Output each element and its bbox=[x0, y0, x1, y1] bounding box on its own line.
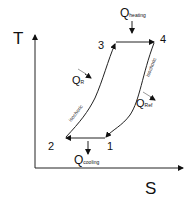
q-cooling-label: Qcooling bbox=[74, 153, 99, 167]
q-heating-label: Qheating bbox=[120, 6, 146, 20]
point-2-label: 2 bbox=[48, 140, 54, 152]
point-3-label: 3 bbox=[98, 39, 104, 51]
q-r-arrow bbox=[85, 74, 91, 78]
s-axis-label: S bbox=[145, 179, 156, 198]
ts-diagram: T S 3 4 2 1 isochoric isochoric Qheating… bbox=[0, 0, 196, 206]
point-1-label: 1 bbox=[107, 140, 113, 152]
q-ref-label: QRef bbox=[136, 97, 153, 109]
process-4-1 bbox=[106, 43, 154, 137]
q-ref-arrow bbox=[150, 97, 155, 100]
isochoric-label-left: isochoric bbox=[67, 103, 84, 123]
q-r-label: QR bbox=[72, 74, 85, 86]
point-4-label: 4 bbox=[160, 33, 166, 45]
process-2-3 bbox=[66, 44, 115, 137]
t-axis-label: T bbox=[13, 29, 23, 48]
